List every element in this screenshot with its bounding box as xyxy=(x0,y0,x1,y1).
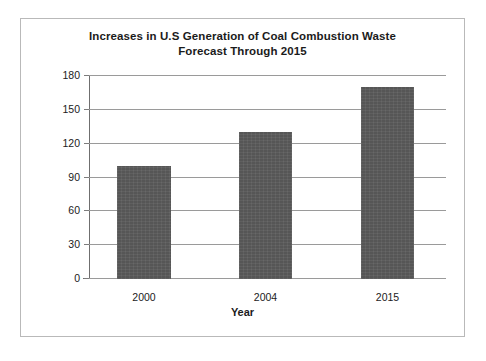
gridline-180: 180 xyxy=(89,75,446,76)
y-tick-label-150: 150 xyxy=(62,103,80,115)
y-tick-label-120: 120 xyxy=(62,137,80,149)
y-tick-mark-30 xyxy=(84,244,89,245)
chart-title-line-1: Increases in U.S Generation of Coal Comb… xyxy=(21,29,464,44)
y-tick-mark-0 xyxy=(84,278,89,279)
chart-title-line-2: Forecast Through 2015 xyxy=(21,44,464,59)
y-tick-mark-60 xyxy=(84,210,89,211)
x-tick-label-2004: 2004 xyxy=(254,291,277,303)
x-tick-label-2000: 2000 xyxy=(132,291,155,303)
y-tick-mark-90 xyxy=(84,177,89,178)
x-tick-label-2015: 2015 xyxy=(376,291,399,303)
y-tick-mark-150 xyxy=(84,109,89,110)
x-axis-title: Year xyxy=(21,306,464,318)
y-tick-label-60: 60 xyxy=(68,204,80,216)
y-tick-mark-180 xyxy=(84,75,89,76)
y-tick-label-0: 0 xyxy=(74,272,80,284)
y-tick-label-180: 180 xyxy=(62,69,80,81)
chart-title: Increases in U.S Generation of Coal Comb… xyxy=(21,29,464,59)
bar-2015[interactable]: 2015 xyxy=(361,87,414,279)
y-tick-mark-120 xyxy=(84,143,89,144)
chart-frame: Increases in U.S Generation of Coal Comb… xyxy=(20,18,465,337)
plot-area: 0 30 60 90 120 150 180 2000 xyxy=(89,76,446,279)
bar-2000[interactable]: 2000 xyxy=(117,166,171,279)
y-tick-label-30: 30 xyxy=(68,238,80,250)
y-tick-label-90: 90 xyxy=(68,171,80,183)
bar-2004[interactable]: 2004 xyxy=(239,132,292,279)
